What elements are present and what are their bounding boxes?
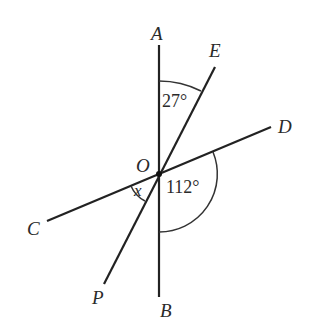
label-d: D: [277, 116, 292, 137]
point-o-dot: [156, 171, 162, 177]
geometry-diagram: A E D O C P B 27° 112° x: [0, 0, 314, 328]
label-p: P: [91, 287, 104, 308]
label-a: A: [149, 23, 163, 44]
angle-label-27: 27°: [162, 91, 187, 111]
label-c: C: [27, 218, 40, 239]
arc-angle-aoe: [159, 81, 201, 91]
label-b: B: [160, 300, 172, 321]
angle-label-112: 112°: [166, 177, 200, 197]
label-o: O: [136, 155, 150, 176]
label-e: E: [208, 40, 221, 61]
angle-label-x: x: [133, 181, 142, 200]
